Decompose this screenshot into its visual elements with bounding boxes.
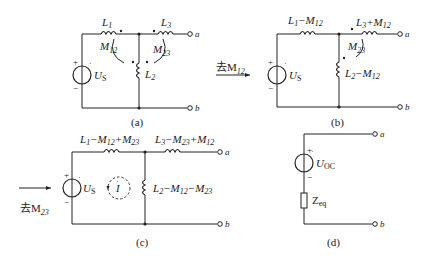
label-L2-M12-M23: L2−M12−M23 [152, 182, 212, 196]
junction [143, 222, 146, 225]
wire [72, 152, 104, 179]
plus-sign: + [307, 145, 312, 155]
terminal-b [398, 105, 403, 110]
terminal-a [398, 32, 403, 37]
wire [82, 84, 187, 108]
coupling-dot [132, 61, 134, 63]
terminal-a [188, 32, 193, 37]
label-Uoc: UOC [316, 157, 335, 171]
circuit-figure: L1 L3 M12 M23 L2 US · + − a b (a) 去M12 [0, 0, 425, 260]
inductor-L1 [101, 32, 116, 35]
label-L1-M12: L1−M12 [287, 14, 323, 28]
dot-over: · [284, 59, 287, 68]
terminal-a-label: a [225, 147, 230, 157]
terminal-b-label: b [405, 102, 410, 112]
coupling-dot [351, 28, 353, 30]
arrow-remove-M23: 去M23 [19, 186, 51, 217]
mesh-current-arrow [107, 186, 110, 190]
label-source: US [83, 182, 95, 196]
label-M23: M23 [152, 43, 170, 58]
junction [337, 32, 340, 35]
label-source: US [94, 69, 106, 83]
minus-sign: − [73, 83, 78, 93]
inductor-L1-M12 [300, 32, 315, 35]
inductor-L3 [158, 32, 173, 35]
coupling-dot [343, 57, 345, 59]
junction [137, 106, 140, 109]
wire [304, 208, 372, 224]
arrow-label: 去M23 [20, 202, 49, 217]
arrow-remove-M12: 去M12 [216, 61, 250, 77]
terminal-a-label: a [195, 29, 200, 39]
coupling-dot [153, 30, 155, 32]
label-L2-M12: L2−M12 [344, 67, 380, 81]
junction [337, 105, 340, 108]
terminal-a [218, 150, 223, 155]
wire [304, 134, 372, 154]
terminal-a [373, 132, 378, 137]
plus-sign: + [268, 57, 273, 67]
inductor-series-3 [165, 150, 180, 153]
label-L3: L3 [160, 16, 171, 30]
coupling-dot [146, 61, 148, 63]
terminal-a-label: a [405, 29, 410, 39]
inductor-series-1 [104, 150, 119, 153]
plus-sign: + [64, 170, 69, 180]
panel-c: I · L1−M12+M23 L3−M23+M12 L2−M12−M23 US … [63, 133, 230, 249]
terminal-b [218, 222, 223, 227]
caption-b: (b) [331, 116, 344, 129]
panel-d: UOC · + − Zeq a b (d) [295, 129, 385, 249]
label-L3+M12: L3+M12 [355, 16, 391, 30]
arrow-label: 去M12 [216, 61, 245, 76]
inductor-L2 [137, 63, 140, 78]
label-M12: M12 [99, 40, 117, 55]
arrow-head [245, 73, 250, 77]
caption-a: (a) [131, 116, 144, 129]
terminal-b [188, 106, 193, 111]
junction [143, 150, 146, 153]
label-L1: L1 [101, 16, 112, 30]
caption-d: (d) [327, 236, 340, 249]
dot-over: · [89, 59, 92, 68]
inductor-L2-M12 [337, 62, 340, 77]
label-L2: L2 [144, 68, 155, 82]
label-L3-M23+M12: L3−M23+M12 [154, 133, 214, 147]
inductor-L3+M12 [362, 32, 377, 35]
label-Zeq: Zeq [312, 194, 326, 208]
minus-sign: − [64, 197, 69, 207]
panel-b: L1−M12 L3+M12 M23 L2−M12 US · + − a b (b… [268, 14, 410, 129]
terminal-b-label: b [225, 219, 230, 229]
terminal-b-label: b [380, 219, 385, 229]
wire [277, 34, 300, 66]
terminal-a-label: a [380, 129, 385, 139]
coupling-dot [120, 30, 122, 32]
dot-over: · [116, 177, 119, 186]
junction [137, 32, 140, 35]
dot-over: · [78, 173, 81, 182]
wire [277, 84, 397, 107]
minus-sign: − [307, 172, 312, 182]
terminal-b [373, 222, 378, 227]
label-source: US [289, 69, 301, 83]
panel-a: L1 L3 M12 M23 L2 US · + − a b (a) [73, 16, 200, 129]
label-L1-M12+M23: L1−M12+M23 [79, 133, 139, 147]
arrow-head [46, 186, 51, 190]
minus-sign: − [268, 83, 273, 93]
terminal-b-label: b [195, 103, 200, 113]
impedance-Zeq [301, 193, 307, 208]
caption-c: (c) [136, 236, 149, 249]
inductor-shunt-2 [143, 180, 146, 195]
plus-sign: + [73, 57, 78, 67]
